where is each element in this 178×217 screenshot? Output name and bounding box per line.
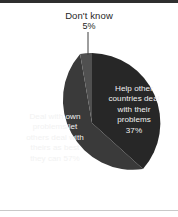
slice-label-value: 37%	[126, 126, 142, 135]
slice-label-line: countries deal	[108, 94, 159, 103]
slice-label-line: Deal with own	[29, 112, 80, 121]
slice-label-line: problems	[117, 115, 151, 124]
slice-label-value: they can 57%	[30, 154, 80, 163]
pie-chart-figure: Don't know 5% Help other countries deal …	[0, 0, 178, 217]
slice-label-deal-with-own-problems: Deal with own problems/let others deal w…	[14, 112, 96, 164]
slice-label-line: with their	[118, 105, 151, 114]
slice-label-line: problems/let	[33, 122, 78, 131]
slice-label-line: Help other	[115, 84, 153, 93]
bottom-divider-rule	[0, 210, 178, 211]
slice-label-help-other-countries: Help other countries deal with their pro…	[101, 84, 167, 136]
slice-label-line: theirs as best	[31, 143, 80, 152]
slice-label-line: others deal with	[26, 133, 84, 142]
